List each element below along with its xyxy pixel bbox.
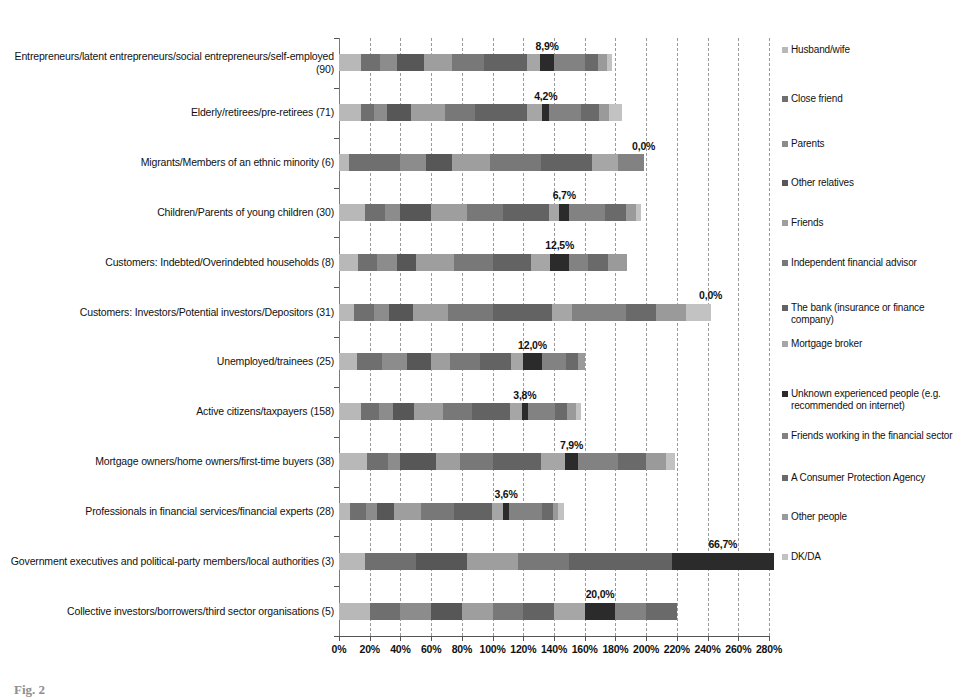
bar-segment bbox=[588, 254, 607, 271]
bar-segment bbox=[567, 403, 576, 420]
legend-item[interactable]: Other relatives bbox=[782, 177, 968, 189]
bar-segment bbox=[450, 353, 481, 370]
bar-segment bbox=[339, 603, 370, 620]
category-label-row: Collective investors/borrowers/third sec… bbox=[4, 586, 334, 636]
bar-segment bbox=[598, 54, 607, 71]
stacked-bar bbox=[339, 503, 564, 520]
legend-item[interactable]: Mortgage broker bbox=[782, 338, 968, 350]
x-axis-tick-label: 180% bbox=[602, 643, 628, 655]
bar-value-label: 3,8% bbox=[513, 389, 536, 401]
legend-label: Unknown experienced people (e.g. recomme… bbox=[791, 388, 968, 412]
bar-segment bbox=[493, 453, 542, 470]
category-label-row: Professionals in financial services/fina… bbox=[4, 487, 334, 537]
category-label: Mortgage owners/home owners/first-time b… bbox=[95, 455, 334, 468]
legend-item[interactable]: Husband/wife bbox=[782, 44, 968, 56]
legend-item[interactable]: Parents bbox=[782, 138, 968, 150]
bar-segment bbox=[581, 104, 598, 121]
bar-segment bbox=[615, 603, 646, 620]
bar-segment bbox=[475, 104, 527, 121]
stacked-bar bbox=[339, 304, 711, 321]
bar-segment bbox=[578, 453, 618, 470]
category-label: Professionals in financial services/fina… bbox=[85, 505, 334, 518]
bar-segment bbox=[542, 353, 567, 370]
bar-segment bbox=[626, 204, 636, 221]
bar-segment bbox=[618, 154, 644, 171]
bar-segment bbox=[357, 353, 382, 370]
legend-item[interactable]: Other people bbox=[782, 511, 968, 523]
legend-label: Husband/wife bbox=[791, 44, 850, 56]
bar-segment bbox=[397, 54, 424, 71]
bar-segment bbox=[454, 503, 492, 520]
legend-item[interactable]: Independent financial advisor bbox=[782, 257, 968, 269]
plot-area: 8,9%4,2%0,0%6,7%12,5%0,0%12,0%3,8%7,9%3,… bbox=[339, 38, 769, 636]
bar-segment bbox=[646, 453, 666, 470]
stacked-bar bbox=[339, 254, 627, 271]
bar-segment bbox=[566, 353, 578, 370]
bar-segment bbox=[472, 403, 510, 420]
bar-segment bbox=[540, 54, 554, 71]
gridline bbox=[615, 38, 616, 636]
category-axis-labels: Entrepreneurs/latent entrepreneurs/socia… bbox=[0, 38, 334, 636]
bar-segment bbox=[339, 353, 357, 370]
legend-label: A Consumer Protection Agency bbox=[791, 472, 925, 484]
stacked-bar bbox=[339, 453, 675, 470]
y-axis-tick bbox=[334, 487, 339, 488]
bar-segment bbox=[565, 453, 577, 470]
bar-segment bbox=[361, 104, 374, 121]
bar-segment bbox=[431, 353, 449, 370]
stacked-bar bbox=[339, 603, 677, 620]
bar-segment bbox=[493, 254, 531, 271]
bar-segment bbox=[549, 104, 581, 121]
x-axis-tick bbox=[462, 636, 463, 641]
bar-segment bbox=[385, 204, 400, 221]
bar-segment bbox=[374, 304, 389, 321]
category-label-row: Customers: Investors/Potential investors… bbox=[4, 287, 334, 337]
bar-segment bbox=[541, 453, 565, 470]
legend-item[interactable]: Friends working in the financial sector bbox=[782, 430, 968, 442]
bar-segment bbox=[400, 453, 436, 470]
legend-label: Other people bbox=[791, 511, 847, 523]
category-label: Customers: Indebted/Overindebted househo… bbox=[105, 256, 334, 269]
x-axis-tick bbox=[769, 636, 770, 641]
legend-item[interactable]: Friends bbox=[782, 217, 968, 229]
legend-item[interactable]: DK/DA bbox=[782, 551, 968, 563]
bar-segment bbox=[569, 254, 588, 271]
stacked-bar bbox=[339, 353, 585, 370]
legend-label: Parents bbox=[791, 138, 824, 150]
x-axis-tick-label: 60% bbox=[421, 643, 441, 655]
legend-swatch-icon bbox=[782, 514, 788, 520]
y-axis-tick bbox=[334, 387, 339, 388]
y-axis-tick bbox=[334, 636, 339, 637]
bar-segment bbox=[413, 304, 448, 321]
y-axis-tick bbox=[334, 586, 339, 587]
legend-item[interactable]: A Consumer Protection Agency bbox=[782, 472, 968, 484]
legend-label: Close friend bbox=[791, 93, 843, 105]
gridline bbox=[400, 38, 401, 636]
x-axis-tick bbox=[339, 636, 340, 641]
bar-segment bbox=[339, 204, 365, 221]
x-axis-tick-label: 140% bbox=[541, 643, 567, 655]
bar-segment bbox=[541, 154, 592, 171]
legend-item[interactable]: Unknown experienced people (e.g. recomme… bbox=[782, 388, 968, 412]
gridline bbox=[554, 38, 555, 636]
x-axis-tick-label: 100% bbox=[480, 643, 506, 655]
legend-item[interactable]: The bank (insurance or finance company) bbox=[782, 302, 968, 326]
category-label: Migrants/Members of an ethnic minority (… bbox=[141, 156, 334, 169]
bar-segment bbox=[426, 154, 452, 171]
y-axis-tick bbox=[334, 138, 339, 139]
bar-segment bbox=[393, 403, 413, 420]
bar-segment bbox=[609, 104, 622, 121]
bar-segment bbox=[554, 603, 585, 620]
x-axis-tick-label: 240% bbox=[695, 643, 721, 655]
x-axis-tick-label: 200% bbox=[633, 643, 659, 655]
bar-segment bbox=[550, 254, 569, 271]
bar-segment bbox=[518, 553, 569, 570]
bar-segment bbox=[339, 304, 354, 321]
bar-value-label: 20,0% bbox=[586, 588, 615, 600]
x-axis-tick-label: 20% bbox=[359, 643, 379, 655]
legend-swatch-icon bbox=[782, 180, 788, 186]
category-label-row: Elderly/retirees/pre-retirees (71) bbox=[4, 88, 334, 138]
legend-item[interactable]: Close friend bbox=[782, 93, 968, 105]
bar-segment bbox=[452, 154, 490, 171]
bar-segment bbox=[592, 154, 618, 171]
